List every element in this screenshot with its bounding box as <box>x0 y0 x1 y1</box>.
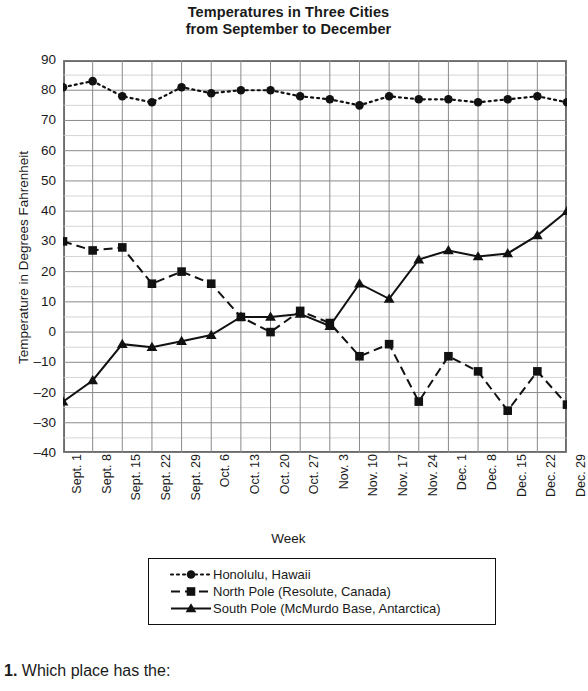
x-axis-tick-label: Nov. 10 <box>366 454 380 520</box>
series-circle <box>63 77 567 110</box>
legend-item: North Pole (Resolute, Canada) <box>149 583 495 600</box>
x-axis-tick-label: Nov. 3 <box>337 454 351 520</box>
y-axis-tick-label: 70 <box>2 113 56 127</box>
legend-key-triangle <box>169 600 213 617</box>
x-axis-tick-label: Sept. 15 <box>129 454 143 520</box>
legend-item: South Pole (McMurdo Base, Antarctica) <box>149 600 495 617</box>
x-axis-tick-label: Oct. 20 <box>278 454 292 520</box>
legend-label: Honolulu, Hawaii <box>213 566 311 583</box>
x-axis-title: Week <box>0 531 577 546</box>
x-axis-tick-label: Dec. 22 <box>544 454 558 520</box>
x-axis-tick-label: Sept. 8 <box>100 454 114 520</box>
question-number: 1. <box>4 662 17 679</box>
x-axis-tick-label: Oct. 6 <box>218 454 232 520</box>
x-axis-tick-label: Sept. 22 <box>159 454 173 520</box>
legend-label: North Pole (Resolute, Canada) <box>213 583 391 600</box>
x-axis-tick-label: Dec. 1 <box>455 454 469 520</box>
y-axis-tick-label: 90 <box>2 53 56 67</box>
y-axis-tick-label: –20 <box>2 386 56 400</box>
series-square <box>63 237 567 415</box>
x-axis-tick-label: Oct. 27 <box>307 454 321 520</box>
y-axis-tick-label: 20 <box>2 265 56 279</box>
y-axis-tick-label: 80 <box>2 83 56 97</box>
x-axis-tick-label: Sept. 1 <box>70 454 84 520</box>
x-axis-tick-label: Sept. 29 <box>189 454 203 520</box>
x-axis-tick-label: Dec. 29 <box>574 454 588 520</box>
series-triangle <box>63 206 567 406</box>
y-axis-tick-label: 30 <box>2 234 56 248</box>
y-axis-tick-label: –10 <box>2 355 56 369</box>
y-axis-tick-label: 50 <box>2 174 56 188</box>
y-axis-tick-label: 60 <box>2 144 56 158</box>
y-axis-tick-label: 0 <box>2 325 56 339</box>
page-title: Temperatures in Three Cities from Septem… <box>0 4 577 38</box>
chart-title-line-2: from September to December <box>0 21 577 38</box>
x-axis-tick-labels: Sept. 1Sept. 8Sept. 15Sept. 22Sept. 29Oc… <box>63 456 567 522</box>
x-axis-tick-label: Oct. 13 <box>248 454 262 520</box>
chart-title-line-1: Temperatures in Three Cities <box>0 4 577 21</box>
legend-key-square <box>169 583 213 600</box>
question-text: Which place has the: <box>22 662 171 679</box>
x-axis-tick-label: Nov. 24 <box>426 454 440 520</box>
y-axis-tick-label: 10 <box>2 295 56 309</box>
y-axis-tick-labels: 9080706050403020100–10–20–30–40 <box>0 60 56 453</box>
y-axis-tick-label: –30 <box>2 416 56 430</box>
legend-key-circle <box>169 566 213 583</box>
legend-label: South Pole (McMurdo Base, Antarctica) <box>213 600 441 617</box>
plot-area <box>63 60 567 453</box>
y-axis-tick-label: 40 <box>2 204 56 218</box>
x-axis-tick-label: Dec. 8 <box>485 454 499 520</box>
y-axis-tick-label: –40 <box>2 446 56 460</box>
legend-item: Honolulu, Hawaii <box>149 566 495 583</box>
chart-legend: Honolulu, HawaiiNorth Pole (Resolute, Ca… <box>148 558 496 625</box>
data-series-layer <box>63 60 567 453</box>
x-axis-tick-label: Nov. 17 <box>396 454 410 520</box>
question-prompt: 1. Which place has the: <box>4 661 564 681</box>
x-axis-tick-label: Dec. 15 <box>515 454 529 520</box>
